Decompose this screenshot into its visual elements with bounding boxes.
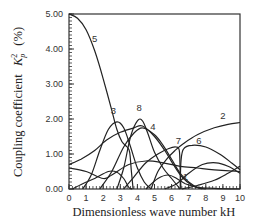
x-tick-label: 7: [186, 193, 191, 203]
x-tick-label: 9: [220, 193, 225, 203]
y-axis-symbol-sup: 2: [10, 54, 19, 58]
curve-unlabeled-a: [69, 161, 240, 179]
y-tick-label: 2.00: [45, 114, 63, 124]
y-axis-title: Coupling coefficient Kp2 (%): [6, 27, 27, 177]
x-tick-label: 8: [203, 193, 208, 203]
x-tick-label: 3: [118, 193, 123, 203]
x-tick-label: 4: [135, 193, 140, 203]
curve-2: [151, 123, 240, 190]
curve-label-5: 5: [92, 33, 97, 44]
curve-label-6: 6: [196, 135, 201, 146]
x-tick-label: 2: [101, 193, 106, 203]
curve-label-2: 2: [220, 110, 225, 121]
x-tick-label: 1: [84, 193, 89, 203]
coupling-coefficient-chart: 0.001.002.003.004.005.00 012345678910 53…: [0, 0, 256, 224]
x-tick-label: 0: [66, 193, 71, 203]
y-tick-label: 4.00: [45, 44, 63, 54]
y-axis-ticks: 0.001.002.003.004.005.00: [45, 9, 74, 194]
y-axis-symbol-sub: p: [18, 54, 27, 59]
y-axis-title-text: Coupling coefficient: [11, 74, 25, 177]
x-axis-ticks: 012345678910: [66, 184, 245, 203]
svg-text:Coupling coefficient Kp2: Coupling coefficient Kp2 (%): [6, 27, 27, 177]
x-tick-label: 10: [235, 193, 245, 203]
y-tick-label: 5.00: [45, 9, 63, 19]
curve-label-8: 8: [136, 102, 141, 113]
curve-5: [69, 14, 133, 189]
y-tick-label: 3.00: [45, 79, 63, 89]
x-axis-title: Dimensionless wave number kH: [73, 205, 236, 219]
curve-label-4: 4: [150, 121, 155, 132]
x-tick-label: 5: [152, 193, 157, 203]
y-tick-label: 0.00: [45, 184, 63, 194]
curve-4: [100, 128, 206, 189]
y-tick-label: 1.00: [45, 149, 63, 159]
curve-label-3: 3: [111, 105, 116, 116]
curve-label-1: 1: [183, 171, 188, 182]
x-tick-label: 6: [169, 193, 174, 203]
curve-label-7: 7: [176, 135, 181, 146]
y-axis-unit: (%): [11, 27, 25, 46]
